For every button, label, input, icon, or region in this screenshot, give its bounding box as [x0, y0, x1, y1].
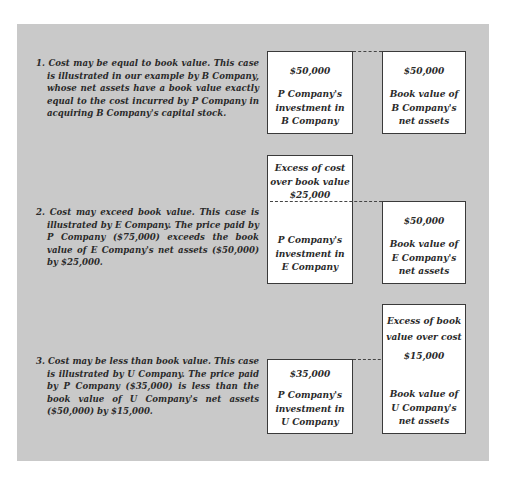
- case-3-p-investment-amount: $35,000: [268, 369, 352, 379]
- case-2-description: 2. Cost may exceed book value. This case…: [36, 206, 259, 269]
- case-1-book-value-amount: $50,000: [383, 66, 465, 76]
- case-3-p-investment-label: P Company's investment in U Company: [268, 389, 352, 430]
- case-1-description: 1. Cost may be equal to book value. This…: [36, 57, 259, 120]
- case-3-excess-of-book-value-label: Excess of book value over cost $15,000: [383, 313, 465, 364]
- case-1-p-investment-label: P Company's investment in B Company: [268, 88, 352, 129]
- case-3-p-investment-box: $35,000 P Company's investment in U Comp…: [267, 359, 353, 434]
- case-1-p-investment-amount: $50,000: [268, 66, 352, 76]
- case-3-book-value-box: Excess of book value over cost $15,000 B…: [382, 304, 466, 434]
- case-3-book-value-label: Book value of U Company's net assets: [383, 388, 465, 429]
- case-1-book-value-box: $50,000 Book value of B Company's net as…: [382, 51, 466, 134]
- case-2-p-investment-label: P Company's investment in E Company: [268, 234, 352, 275]
- case-1-book-value-label: Book value of B Company's net assets: [383, 88, 465, 129]
- case-2-p-investment-box: Excess of cost over book value $25,000 P…: [267, 155, 353, 284]
- case-1-connector-dashed-line: [353, 51, 382, 52]
- case-2-divider-dashed-line: [270, 201, 382, 202]
- case-2-book-value-amount: $50,000: [383, 216, 465, 226]
- case-2-book-value-box: $50,000 Book value of E Company's net as…: [382, 201, 466, 284]
- case-2-excess-of-cost-label: Excess of cost over book value $25,000: [268, 162, 352, 203]
- case-1-p-investment-box: $50,000 P Company's investment in B Comp…: [267, 51, 353, 134]
- case-2-book-value-label: Book value of E Company's net assets: [383, 238, 465, 279]
- case-3-description: 3. Cost may be less than book value. Thi…: [36, 355, 259, 418]
